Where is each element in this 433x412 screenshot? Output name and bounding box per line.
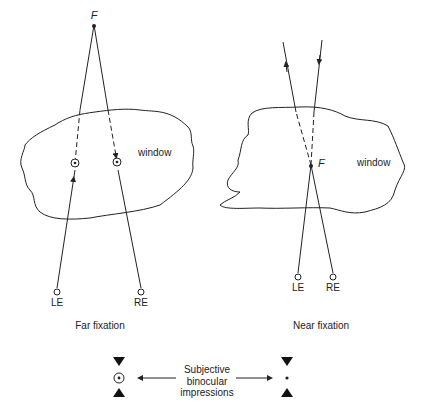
- legend-dot-icon: [285, 376, 288, 379]
- near-left-eye-label: LE: [292, 282, 304, 293]
- far-left-ray-dashed: [75, 110, 80, 163]
- legend-left-triangle-down-icon: [113, 357, 125, 366]
- far-window-outline: [21, 109, 194, 219]
- far-window-label: window: [138, 147, 171, 158]
- near-left-ray: [298, 165, 311, 273]
- near-right-ray: [314, 40, 322, 112]
- near-fixation-point-icon: [309, 164, 313, 168]
- legend-right-triangle-up-icon: [281, 388, 293, 397]
- near-right-eye-icon: [330, 274, 336, 280]
- legend-text: Subjective binocular impressions: [180, 364, 233, 399]
- legend-right-triangle-down-icon: [281, 357, 293, 366]
- near-right-eye-label: RE: [326, 282, 340, 293]
- legend-line-3: impressions: [180, 387, 233, 399]
- legend-left-triangle-up-icon: [113, 388, 125, 397]
- near-fixation-label: F: [318, 158, 325, 169]
- far-fixation-point-icon: [92, 24, 96, 28]
- far-caption: Far fixation: [75, 320, 124, 331]
- diagram-canvas: [0, 0, 433, 412]
- legend-line-1: Subjective: [180, 364, 233, 376]
- far-fixation-label: F: [91, 10, 98, 21]
- far-left-ray-solid: [57, 170, 75, 288]
- far-left-eye-label: LE: [51, 297, 63, 308]
- far-right-ray: [94, 25, 108, 110]
- near-window-label: window: [357, 157, 390, 168]
- far-right-eye-label: RE: [134, 297, 148, 308]
- far-fixation-panel: [21, 24, 194, 295]
- near-caption: Near fixation: [293, 320, 349, 331]
- near-left-eye-icon: [295, 274, 301, 280]
- far-left-eye-icon: [54, 289, 60, 295]
- legend-line-2: binocular: [180, 376, 233, 388]
- far-right-eye-icon: [138, 289, 144, 295]
